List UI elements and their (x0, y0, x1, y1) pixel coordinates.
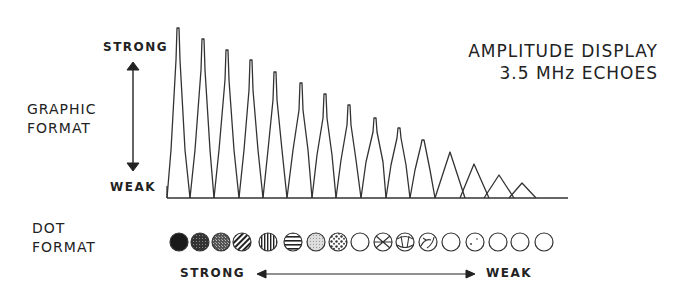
dot-6 (284, 233, 302, 251)
dot-17 (535, 233, 553, 251)
dot-16 (511, 233, 529, 251)
dot-4 (233, 233, 251, 251)
dot-7 (307, 233, 325, 251)
dot-5 (259, 233, 277, 251)
dot-10 (374, 233, 392, 251)
dot-9 (351, 233, 369, 251)
dot-15 (489, 233, 507, 251)
dot-13 (442, 233, 460, 251)
dot-12 (419, 233, 437, 251)
dot-8 (329, 233, 347, 251)
echo-spikes (167, 28, 536, 198)
dot-2 (191, 233, 209, 251)
strong-weak-horizontal-arrow (257, 270, 475, 278)
dot-format-row (170, 233, 553, 251)
dot-1 (170, 233, 188, 251)
dot-11 (396, 233, 414, 251)
dot-3 (212, 233, 230, 251)
dot-14 (466, 233, 484, 251)
strong-weak-vertical-arrow (127, 62, 139, 171)
diagram-graphics (0, 0, 698, 297)
